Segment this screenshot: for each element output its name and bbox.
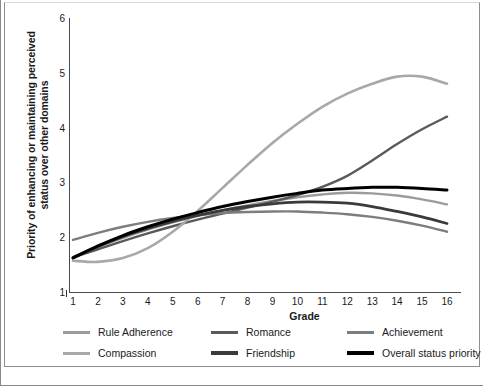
legend-label: Overall status priority <box>382 347 481 359</box>
x-tick-16: 16 <box>436 296 458 307</box>
y-tick-6: 6 <box>43 13 65 24</box>
legend-swatch-icon <box>347 351 374 355</box>
legend-row: Rule AdherenceRomanceAchievement <box>63 326 475 338</box>
x-tick-9: 9 <box>261 296 283 307</box>
x-axis-title-text: Grade <box>289 310 319 322</box>
x-tick-2: 2 <box>87 296 109 307</box>
legend-swatch-icon <box>347 331 374 334</box>
x-axis-title: Grade <box>1 310 483 322</box>
legend-row: CompassionFriendshipOverall status prior… <box>63 347 475 359</box>
legend-label: Romance <box>246 326 291 338</box>
x-axis-line <box>69 292 461 293</box>
x-tick-6: 6 <box>187 296 209 307</box>
legend-item-overall-status-priority[interactable]: Overall status priority <box>347 347 475 359</box>
legend-swatch-icon <box>63 352 90 355</box>
y-tick-3: 3 <box>43 177 65 188</box>
legend-label: Friendship <box>246 347 295 359</box>
legend-swatch-icon <box>63 331 90 334</box>
x-tick-4: 4 <box>137 296 159 307</box>
line-overall-status-priority <box>73 187 447 258</box>
axis-origin-mark <box>66 290 67 297</box>
plot-area <box>69 18 461 292</box>
y-axis-tick-labels: 654321 <box>41 0 65 386</box>
line-friendship <box>73 202 447 258</box>
legend-item-friendship[interactable]: Friendship <box>211 347 347 359</box>
figure-container: Priority of enhancing or maintaining per… <box>0 0 483 386</box>
legend-item-romance[interactable]: Romance <box>211 326 347 338</box>
legend-item-achievement[interactable]: Achievement <box>347 326 475 338</box>
x-tick-1: 1 <box>62 296 84 307</box>
x-tick-7: 7 <box>212 296 234 307</box>
legend-item-compassion[interactable]: Compassion <box>63 347 211 359</box>
series-lines <box>69 18 461 292</box>
y-tick-2: 2 <box>43 232 65 243</box>
y-tick-5: 5 <box>43 67 65 78</box>
legend-swatch-icon <box>211 331 238 334</box>
x-tick-13: 13 <box>361 296 383 307</box>
y-tick-4: 4 <box>43 122 65 133</box>
x-tick-8: 8 <box>237 296 259 307</box>
x-tick-14: 14 <box>386 296 408 307</box>
x-tick-11: 11 <box>311 296 333 307</box>
legend-label: Achievement <box>382 326 443 338</box>
legend-label: Rule Adherence <box>98 326 173 338</box>
x-tick-15: 15 <box>411 296 433 307</box>
legend-swatch-icon <box>211 351 238 355</box>
x-tick-10: 10 <box>286 296 308 307</box>
x-tick-12: 12 <box>336 296 358 307</box>
legend-item-rule-adherence[interactable]: Rule Adherence <box>63 326 211 338</box>
legend-label: Compassion <box>98 347 156 359</box>
x-tick-3: 3 <box>112 296 134 307</box>
chart-legend: Rule AdherenceRomanceAchievementCompassi… <box>63 326 475 368</box>
x-tick-5: 5 <box>162 296 184 307</box>
